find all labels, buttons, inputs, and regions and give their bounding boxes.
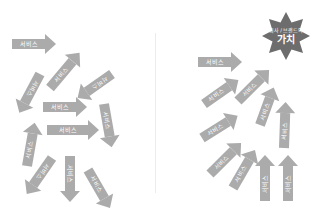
service-arrow: 서비스 [257,155,273,201]
arrow-label: 서비스 [199,117,231,142]
service-arrow: 서비스 [81,166,117,210]
arrow-label: 서비스 [201,82,232,108]
arrow-label: 서비스 [84,168,109,202]
service-arrow: 서비스 [12,36,56,52]
panel-divider [155,33,156,193]
value-badge-text: 회사 / 브랜드의 가치 [262,12,310,60]
arrow-label: 서비스 [65,156,75,191]
service-arrow: 서비스 [280,155,296,201]
service-arrow: 서비스 [96,103,119,149]
service-arrow: 서비스 [47,122,99,138]
arrow-label: 서비스 [255,96,274,127]
arrow-label: 서비스 [99,103,115,137]
value-badge-title: 가치 [277,34,295,46]
arrow-label: 서비스 [260,166,270,201]
arrow-label: 서비스 [283,166,293,201]
service-arrow: 서비스 [62,156,78,202]
arrow-label: 서비스 [198,57,231,67]
service-arrow: 서비스 [43,99,87,115]
arrow-label: 서비스 [43,102,76,112]
arrow-label: 서비스 [47,125,88,135]
value-badge-subtitle: 회사 / 브랜드의 [269,27,304,34]
service-arrow: 서비스 [276,102,294,149]
arrow-label: 서비스 [46,58,76,91]
service-arrow: 서비스 [198,54,242,70]
arrow-label: 서비스 [12,39,45,49]
arrow-label: 서비스 [22,133,38,167]
service-arrow: 서비스 [12,70,47,116]
arrow-label: 서비스 [279,113,290,148]
diagram-canvas: 서비스 서비스 서비스 서비스 서비스 서비스 서비스 [0,0,330,210]
arrow-label: 서비스 [84,70,115,96]
arrow-label: 서비스 [20,72,44,106]
